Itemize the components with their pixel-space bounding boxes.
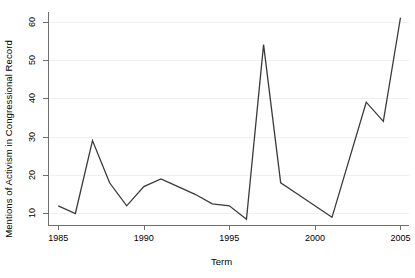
x-tick-mark <box>144 225 145 230</box>
x-axis-title: Term <box>48 256 395 267</box>
x-tick-mark <box>58 225 59 230</box>
y-tick-label: 50 <box>22 53 42 67</box>
y-tick-label: 60 <box>22 15 42 29</box>
x-tick-mark <box>315 225 316 230</box>
y-axis-title: Mentions of Activism in Congressional Re… <box>0 0 16 278</box>
y-tick-label: 20 <box>22 168 42 182</box>
y-tick-label: 40 <box>22 91 42 105</box>
x-tick-mark <box>400 225 401 230</box>
x-tick-label: 2005 <box>380 233 415 243</box>
x-tick-label: 1995 <box>209 233 249 243</box>
x-tick-label: 1985 <box>38 233 78 243</box>
y-tick-label: 10 <box>22 206 42 220</box>
data-series-line <box>44 12 409 225</box>
x-tick-label: 1990 <box>124 233 164 243</box>
x-tick-mark <box>229 225 230 230</box>
y-tick-label: 30 <box>22 130 42 144</box>
plot-area: 102030405060 19851990199520002005 <box>44 12 409 225</box>
x-tick-label: 2000 <box>295 233 335 243</box>
